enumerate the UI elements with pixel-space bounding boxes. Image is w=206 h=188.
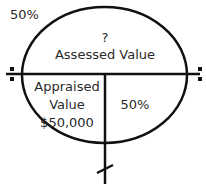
assessment-circle-diagram: 50% ? Assessed Value Appraised Value $50… xyxy=(0,0,206,188)
bottom-right-percentage: 50% xyxy=(115,96,155,113)
appraised-amount: $50,000 xyxy=(33,114,101,131)
appraised-label: Appraised xyxy=(33,78,101,95)
unknown-marker: ? xyxy=(55,29,155,46)
top-left-percentage: 50% xyxy=(10,6,39,23)
value-label: Value xyxy=(33,96,101,113)
assessed-value-label: Assessed Value xyxy=(50,46,160,63)
